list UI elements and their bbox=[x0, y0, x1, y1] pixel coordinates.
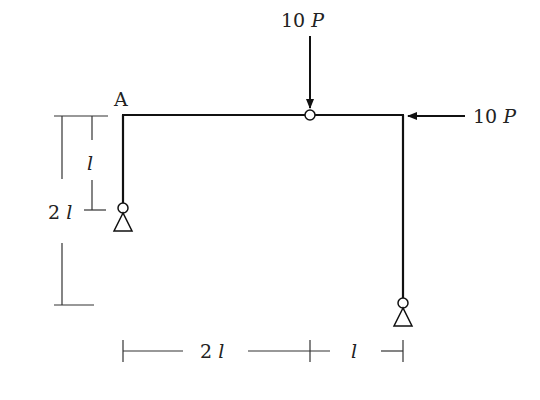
dim-left-outer: 2 l bbox=[48, 201, 72, 223]
left-pin-support bbox=[114, 203, 132, 231]
bottom-dimension-lines bbox=[123, 340, 403, 362]
horizontal-load-label: 10 P bbox=[473, 105, 517, 127]
internal-hinge bbox=[305, 110, 315, 120]
frame bbox=[122, 115, 404, 298]
vertical-load-label: 10 P bbox=[281, 9, 325, 31]
frame-diagram: 10 P 10 P A l 2 l 2 l l bbox=[0, 0, 540, 400]
dim-bottom-left: 2 l bbox=[200, 340, 224, 362]
right-pin-support bbox=[394, 298, 412, 326]
dim-bottom-right: l bbox=[351, 340, 357, 362]
dim-left-inner: l bbox=[87, 152, 93, 174]
node-label-a: A bbox=[113, 88, 128, 110]
